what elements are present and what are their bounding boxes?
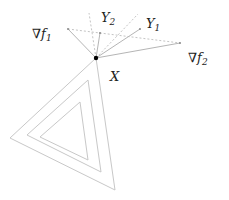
triangle-inner [40, 102, 88, 160]
dashed-lines [68, 13, 180, 58]
point-x [94, 56, 98, 60]
arrow-tip-y2 [99, 32, 101, 34]
label-y1: Y1 [146, 16, 160, 33]
dashed-grad-connector [68, 29, 180, 43]
label-grad-f2: ∇f2 [188, 50, 208, 67]
arrow-tip-y1 [139, 28, 141, 30]
label-grad-f1: ∇f1 [32, 26, 52, 43]
label-y2: Y2 [101, 10, 116, 27]
nested-triangles [10, 58, 115, 190]
arrow-tip-grad-f1 [67, 28, 69, 30]
triangle-outer [10, 58, 115, 190]
triangle-middle [27, 80, 101, 172]
label-x: X [109, 69, 120, 84]
gradient-diagram: ∇f1 ∇f2 Y1 Y2 X [0, 0, 229, 200]
vectors [67, 28, 181, 58]
arrow-tip-grad-f2 [179, 42, 181, 44]
